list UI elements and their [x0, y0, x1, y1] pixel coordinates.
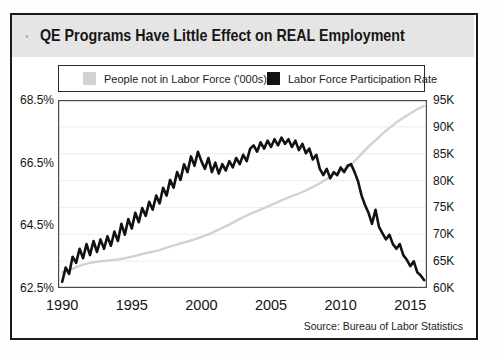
legend-swatch [267, 72, 280, 85]
x-tick-label: 1990 [40, 297, 84, 313]
legend-label: People not in Labor Force ('000s) [104, 73, 267, 85]
legend-item: Labor Force Participation Rate [267, 72, 437, 85]
y-right-tick-label: 85K [433, 147, 473, 161]
y-left-tick-label: 62.5% [12, 281, 54, 295]
series-line-not-in-labor-force [62, 106, 424, 273]
y-right-tick-label: 65K [433, 254, 473, 268]
chart-header: QE Programs Have Little Effect on REAL E… [12, 15, 474, 57]
x-tick-label: 2010 [319, 297, 363, 313]
y-right-tick-label: 95K [433, 93, 473, 107]
legend-swatch [83, 72, 96, 85]
x-tick-label: 2005 [249, 297, 293, 313]
y-right-tick-label: 60K [433, 281, 473, 295]
legend: People not in Labor Force ('000s) Labor … [58, 65, 425, 92]
x-tick-label: 2015 [388, 297, 432, 313]
y-right-tick-label: 75K [433, 200, 473, 214]
y-right-tick-label: 70K [433, 227, 473, 241]
gear-icon [25, 28, 29, 45]
y-right-tick-label: 80K [433, 174, 473, 188]
chart-title: QE Programs Have Little Effect on REAL E… [40, 26, 405, 46]
x-tick-label: 2000 [179, 297, 223, 313]
y-right-tick-label: 90K [433, 120, 473, 134]
legend-label: Labor Force Participation Rate [288, 73, 437, 85]
y-left-tick-label: 64.5% [12, 218, 54, 232]
chart-page: QE Programs Have Little Effect on REAL E… [0, 0, 498, 361]
legend-item: People not in Labor Force ('000s) [83, 72, 267, 85]
y-left-tick-label: 66.5% [12, 156, 54, 170]
y-left-tick-label: 68.5% [12, 93, 54, 107]
plot-svg [58, 100, 427, 288]
source-note: Source: Bureau of Labor Statistics [263, 320, 463, 332]
x-tick-label: 1995 [110, 297, 154, 313]
